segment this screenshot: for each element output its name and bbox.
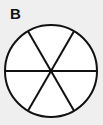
center-dot xyxy=(49,69,53,73)
figure-panel: B xyxy=(0,0,103,125)
fraction-circle-diagram xyxy=(0,0,103,125)
